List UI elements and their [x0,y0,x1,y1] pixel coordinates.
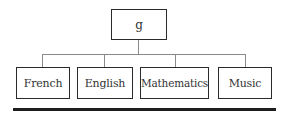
root-node-label: g [135,18,142,32]
horizontal-connector [42,54,246,55]
child-node-mathematics: Mathematics [140,67,209,99]
child-node-french: French [16,67,70,99]
child-node-label: Music [229,77,262,90]
child-connector-english [104,54,105,67]
child-connector-music [245,54,246,67]
root-connector [138,40,139,54]
bottom-rule [13,108,276,111]
child-connector-french [42,54,43,67]
child-connector-mathematics [175,54,176,67]
child-node-label: English [85,77,126,90]
child-node-label: Mathematics [141,77,208,89]
child-node-label: French [24,77,63,90]
child-node-music: Music [218,67,272,99]
root-node-g: g [111,9,167,40]
child-node-english: English [77,67,133,99]
